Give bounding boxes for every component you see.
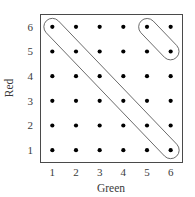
data-point bbox=[74, 74, 78, 78]
data-point bbox=[50, 49, 54, 53]
data-point bbox=[121, 25, 125, 29]
y-tick-label: 2 bbox=[28, 119, 34, 131]
y-tick-label: 5 bbox=[28, 45, 34, 57]
data-point bbox=[98, 123, 102, 127]
data-point bbox=[50, 123, 54, 127]
data-point bbox=[169, 99, 173, 103]
scatter-plot-figure: 123456 654321 Green Red bbox=[0, 0, 195, 197]
data-point bbox=[98, 99, 102, 103]
y-tick-label: 4 bbox=[28, 70, 34, 82]
data-point bbox=[169, 123, 173, 127]
data-point bbox=[145, 148, 149, 152]
data-point bbox=[98, 25, 102, 29]
data-point bbox=[98, 148, 102, 152]
data-point bbox=[74, 49, 78, 53]
data-point bbox=[169, 49, 173, 53]
data-point bbox=[50, 25, 54, 29]
data-point bbox=[145, 74, 149, 78]
data-point bbox=[98, 74, 102, 78]
y-axis-tick-labels: 654321 bbox=[28, 21, 34, 156]
x-tick-label: 1 bbox=[50, 166, 56, 178]
x-tick-label: 6 bbox=[168, 166, 174, 178]
x-tick-label: 2 bbox=[73, 166, 79, 178]
data-point bbox=[145, 49, 149, 53]
data-point bbox=[50, 99, 54, 103]
data-point bbox=[98, 49, 102, 53]
data-point bbox=[50, 148, 54, 152]
data-point bbox=[121, 49, 125, 53]
data-point bbox=[121, 123, 125, 127]
data-point bbox=[74, 148, 78, 152]
data-point bbox=[74, 99, 78, 103]
y-tick-label: 6 bbox=[28, 21, 34, 33]
y-tick-label: 3 bbox=[28, 95, 34, 107]
x-tick-label: 3 bbox=[97, 166, 103, 178]
x-axis-title: Green bbox=[97, 182, 125, 194]
x-axis-tick-labels: 123456 bbox=[50, 166, 174, 178]
data-point bbox=[121, 74, 125, 78]
data-point bbox=[169, 148, 173, 152]
plot-frame bbox=[41, 15, 183, 163]
data-point bbox=[74, 25, 78, 29]
data-point bbox=[145, 25, 149, 29]
data-point bbox=[145, 123, 149, 127]
x-tick-label: 4 bbox=[121, 166, 127, 178]
y-tick-label: 1 bbox=[28, 144, 34, 156]
y-axis-title: Red bbox=[3, 78, 15, 97]
data-point bbox=[121, 99, 125, 103]
chart-canvas: 123456 654321 Green Red bbox=[0, 0, 195, 197]
x-tick-label: 5 bbox=[144, 166, 150, 178]
data-point bbox=[50, 74, 54, 78]
data-point bbox=[74, 123, 78, 127]
data-point bbox=[169, 74, 173, 78]
data-point bbox=[169, 25, 173, 29]
data-point bbox=[121, 148, 125, 152]
data-point bbox=[145, 99, 149, 103]
